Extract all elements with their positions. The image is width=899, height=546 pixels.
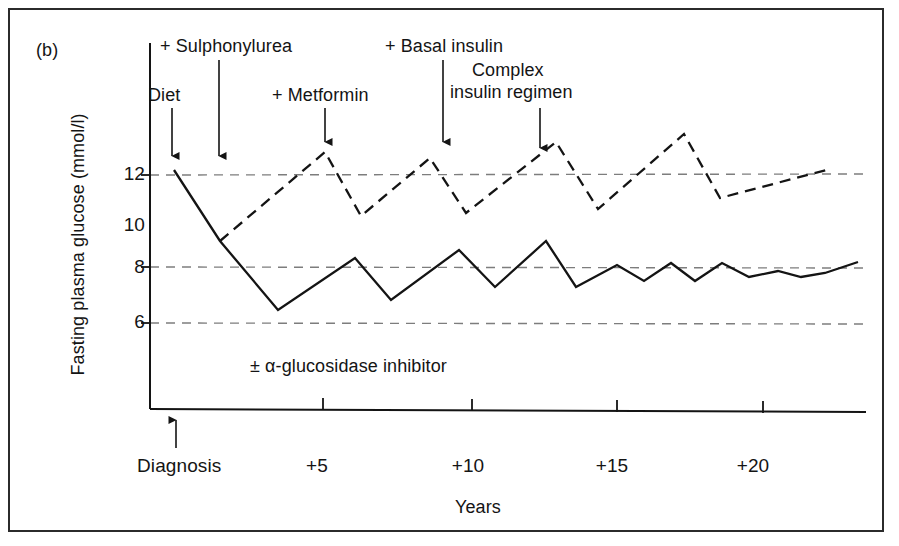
y-axis-ticks <box>141 175 150 323</box>
gridline-y-8 <box>150 267 866 268</box>
series-dashed-untreated <box>220 134 830 241</box>
gridline-y-12 <box>150 174 866 175</box>
gridline-y-6 <box>150 323 866 324</box>
annotation-arrows <box>172 60 540 448</box>
x-axis-line <box>150 409 866 412</box>
chart-canvas <box>0 0 899 546</box>
gridlines <box>150 174 866 324</box>
figure-container: (b) Fasting plasma glucose (mmol/l) Year… <box>0 0 899 546</box>
axes <box>150 43 866 412</box>
series-solid-treated <box>174 170 858 310</box>
